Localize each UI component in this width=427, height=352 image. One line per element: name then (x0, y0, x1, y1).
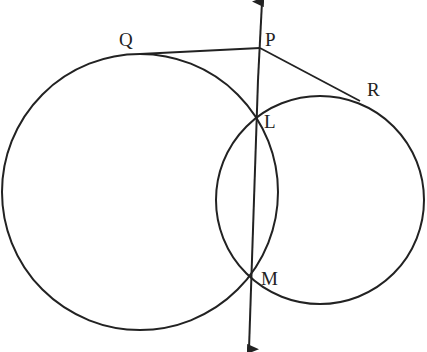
label-r: R (367, 80, 380, 99)
label-l: L (264, 112, 276, 131)
small-circle (216, 96, 424, 304)
line-plm-up (258, 2, 262, 80)
large-circle (2, 54, 278, 330)
tangent-pr (260, 48, 360, 101)
diagram-canvas (0, 0, 427, 352)
tangent-pq (140, 48, 260, 54)
geometry-diagram: Q P R L M (0, 0, 427, 352)
label-p: P (265, 30, 276, 49)
label-m: M (261, 269, 278, 288)
label-q: Q (119, 30, 133, 49)
